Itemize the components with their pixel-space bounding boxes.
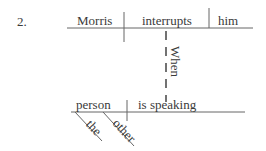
subject-word: Morris — [77, 14, 112, 27]
subordinate-subject-word: person — [76, 98, 111, 111]
item-number: 2. — [17, 15, 27, 28]
object-word: him — [218, 14, 238, 27]
subordinate-verb-word: is speaking — [138, 98, 196, 111]
verb-word: interrupts — [142, 14, 192, 27]
connector-word: When — [169, 46, 182, 77]
sentence-diagram: 2. Morris interrupts him When person is … — [0, 0, 266, 151]
